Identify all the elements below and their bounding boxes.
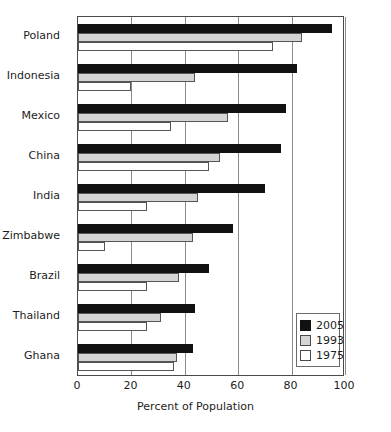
- x-tick-80: 80: [271, 380, 311, 391]
- bar-india-1975: [78, 202, 147, 211]
- category-label-brazil: Brazil: [29, 270, 60, 281]
- bar-zimbabwe-1975: [78, 242, 105, 251]
- bar-indonesia-1975: [78, 82, 131, 91]
- x-axis-title: Percent of Population: [0, 400, 391, 413]
- legend-label-2005: 2005: [316, 319, 344, 332]
- category-label-china: China: [29, 150, 60, 161]
- legend-item-2005: 2005: [300, 318, 337, 332]
- legend-label-1993: 1993: [316, 334, 344, 347]
- bar-china-1975: [78, 162, 209, 171]
- bar-zimbabwe-2005: [78, 224, 233, 233]
- bar-brazil-1993: [78, 273, 179, 282]
- category-label-mexico: Mexico: [22, 110, 60, 121]
- bar-china-2005: [78, 144, 281, 153]
- bar-china-1993: [78, 153, 220, 162]
- category-label-india: India: [33, 190, 60, 201]
- x-tick-100: 100: [324, 380, 364, 391]
- gridline-100: [345, 17, 346, 375]
- bar-group: [78, 57, 343, 97]
- bar-chart: PolandIndonesiaMexicoChinaIndiaZimbabweB…: [0, 0, 391, 432]
- category-label-zimbabwe: Zimbabwe: [2, 230, 60, 241]
- bar-group: [78, 97, 343, 137]
- bar-ghana-1993: [78, 353, 177, 362]
- bar-ghana-2005: [78, 344, 193, 353]
- bar-group: [78, 17, 343, 57]
- bar-poland-1993: [78, 33, 302, 42]
- bar-ghana-1975: [78, 362, 174, 371]
- bar-india-1993: [78, 193, 198, 202]
- category-label-thailand: Thailand: [13, 310, 60, 321]
- bar-group: [78, 217, 343, 257]
- x-tick-40: 40: [164, 380, 204, 391]
- bar-india-2005: [78, 184, 265, 193]
- category-label-poland: Poland: [23, 30, 60, 41]
- bar-mexico-2005: [78, 104, 286, 113]
- bar-brazil-2005: [78, 264, 209, 273]
- bar-group: [78, 257, 343, 297]
- grey-square-swatch: [300, 335, 311, 346]
- bar-zimbabwe-1993: [78, 233, 193, 242]
- bar-mexico-1993: [78, 113, 228, 122]
- white-square-swatch: [300, 350, 311, 361]
- bar-thailand-1975: [78, 322, 147, 331]
- bar-thailand-2005: [78, 304, 195, 313]
- bar-poland-2005: [78, 24, 332, 33]
- x-tick-20: 20: [110, 380, 150, 391]
- bar-poland-1975: [78, 42, 273, 51]
- bar-brazil-1975: [78, 282, 147, 291]
- bar-group: [78, 137, 343, 177]
- legend-item-1993: 1993: [300, 333, 337, 347]
- x-tick-0: 0: [57, 380, 97, 391]
- bar-mexico-1975: [78, 122, 171, 131]
- legend: 200519931975: [296, 313, 340, 367]
- black-square-swatch: [300, 320, 311, 331]
- bar-indonesia-1993: [78, 73, 195, 82]
- x-tick-60: 60: [217, 380, 257, 391]
- category-label-indonesia: Indonesia: [7, 70, 60, 81]
- category-label-ghana: Ghana: [24, 350, 60, 361]
- legend-item-1975: 1975: [300, 348, 337, 362]
- bar-thailand-1993: [78, 313, 161, 322]
- bar-group: [78, 177, 343, 217]
- legend-label-1975: 1975: [316, 349, 344, 362]
- bar-indonesia-2005: [78, 64, 297, 73]
